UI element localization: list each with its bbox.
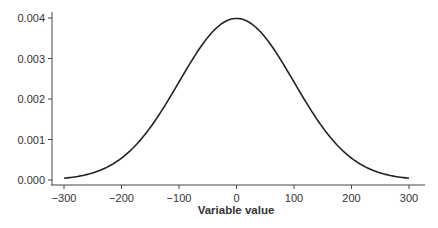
x-tick-label: 0 <box>233 192 239 204</box>
y-tick-label: 0.004 <box>17 12 45 24</box>
y-axis: 0.0000.0010.0020.0030.004 <box>17 12 52 186</box>
x-tick-label: −100 <box>167 192 192 204</box>
density-curve <box>64 18 409 178</box>
y-tick-label: 0.001 <box>17 134 45 146</box>
x-axis-label: Variable value <box>198 204 275 216</box>
density-chart: 0.0000.0010.0020.0030.004 −300−200−10001… <box>0 0 438 228</box>
x-tick-label: −300 <box>52 192 77 204</box>
y-tick-label: 0.000 <box>17 174 45 186</box>
x-tick-label: −200 <box>109 192 134 204</box>
x-tick-label: 300 <box>400 192 418 204</box>
x-tick-label: 200 <box>342 192 360 204</box>
y-tick-label: 0.003 <box>17 53 45 65</box>
x-tick-label: 100 <box>285 192 303 204</box>
x-axis: −300−200−1000100200300 <box>51 185 425 204</box>
y-tick-label: 0.002 <box>17 93 45 105</box>
